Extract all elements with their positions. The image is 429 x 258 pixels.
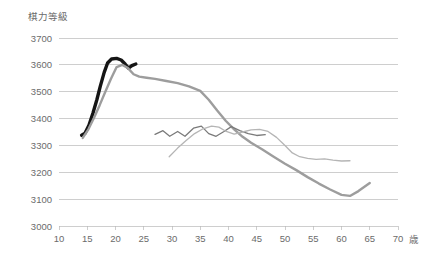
x-tick-label: 35: [195, 233, 206, 244]
y-tick-label: 3700: [31, 33, 52, 44]
axis-tickmarks: [59, 226, 398, 230]
x-tick-label: 55: [308, 233, 319, 244]
x-tick-label: 10: [54, 233, 65, 244]
y-axis-tick-labels: 37003600350034003300320031003000: [31, 33, 52, 232]
x-tick-label: 50: [280, 233, 291, 244]
x-axis-unit-label: 歳: [409, 234, 419, 245]
y-tick-label: 3400: [31, 113, 52, 124]
x-tick-label: 15: [82, 233, 93, 244]
series-line-thick-black-line: [82, 58, 136, 135]
chart-container: 37003600350034003300320031003000 1015202…: [0, 0, 429, 258]
y-tick-label: 3100: [31, 194, 52, 205]
x-tick-label: 70: [393, 233, 404, 244]
series-line-light-gray-descending-line: [169, 126, 350, 161]
x-tick-label: 60: [336, 233, 347, 244]
y-tick-label: 3600: [31, 59, 52, 70]
x-tick-label: 25: [138, 233, 149, 244]
y-tick-label: 3500: [31, 86, 52, 97]
y-axis-title: 棋力等級: [28, 11, 68, 22]
x-axis-tick-labels: 10152025303540455055606570: [54, 233, 404, 244]
x-tick-label: 45: [251, 233, 262, 244]
data-series-group: [82, 58, 370, 196]
line-chart: 37003600350034003300320031003000 1015202…: [0, 0, 429, 258]
y-tick-label: 3200: [31, 167, 52, 178]
x-tick-label: 65: [364, 233, 375, 244]
y-tick-label: 3000: [31, 221, 52, 232]
y-tick-label: 3300: [31, 140, 52, 151]
series-line-medium-gray-jagged-line: [155, 126, 265, 136]
x-tick-label: 20: [110, 233, 121, 244]
x-tick-label: 40: [223, 233, 234, 244]
x-tick-label: 30: [167, 233, 178, 244]
